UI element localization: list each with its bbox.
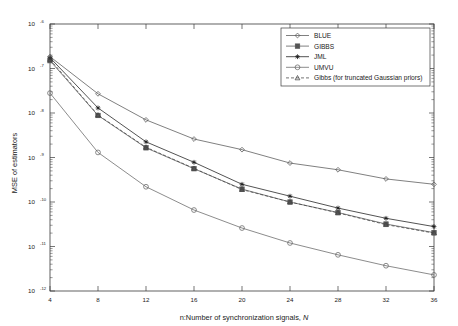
legend-label: BLUE xyxy=(314,32,332,39)
legend-label: Gibbs (for truncated Gaussian priors) xyxy=(314,74,422,82)
y-tick-exponent: -6 xyxy=(40,19,44,24)
x-axis-label-plain: n:Number of synchronization signals, xyxy=(180,313,303,322)
x-tick-label: 12 xyxy=(143,296,150,303)
data-point-marker xyxy=(295,54,300,59)
data-point-marker xyxy=(192,160,197,165)
data-point-marker xyxy=(295,44,299,48)
figure-container: 10-610-710-810-910-1010-1110-12 48121620… xyxy=(0,0,458,326)
x-tick-label: 32 xyxy=(383,296,390,303)
chart-legend: BLUEGIBBSJMLUMVUGibbs (for truncated Gau… xyxy=(281,28,430,86)
y-tick-exponent: -9 xyxy=(40,152,44,157)
x-tick-label: 28 xyxy=(335,296,342,303)
y-tick-exponent: -12 xyxy=(40,286,47,291)
y-tick-exponent: -11 xyxy=(40,241,46,246)
y-tick-label: 10 xyxy=(28,287,35,294)
y-axis-label: MSE of estimators xyxy=(10,133,19,194)
x-axis-label: n:Number of synchronization signals, N xyxy=(180,313,309,322)
x-tick-label: 20 xyxy=(239,296,246,303)
y-tick-exponent: -10 xyxy=(40,197,47,202)
x-tick-label: 8 xyxy=(96,296,100,303)
y-tick-label: 10 xyxy=(28,20,35,27)
y-tick-label: 10 xyxy=(28,198,35,205)
data-point-marker xyxy=(96,106,101,111)
mse-vs-sync-signals-chart: 10-610-710-810-910-1010-1110-12 48121620… xyxy=(0,0,458,326)
y-tick-label: 10 xyxy=(28,154,35,161)
legend-label: UMVU xyxy=(314,64,334,71)
legend-label: JML xyxy=(314,53,327,60)
x-tick-label: 16 xyxy=(191,296,198,303)
data-point-marker xyxy=(432,224,437,229)
y-tick-label: 10 xyxy=(28,243,35,250)
data-point-marker xyxy=(384,216,389,221)
series-line xyxy=(50,61,434,233)
y-tick-exponent: -8 xyxy=(40,108,44,113)
data-series-group xyxy=(48,54,437,277)
data-point-marker xyxy=(144,139,149,144)
x-tick-label: 4 xyxy=(48,296,52,303)
data-point-marker xyxy=(288,194,293,199)
x-axis-label-italic: N xyxy=(303,313,309,322)
x-tick-label: 24 xyxy=(287,296,294,303)
y-tick-label: 10 xyxy=(28,65,35,72)
y-tick-label: 10 xyxy=(28,109,35,116)
y-tick-exponent: -7 xyxy=(40,63,44,68)
x-tick-label: 36 xyxy=(431,296,438,303)
legend-label: GIBBS xyxy=(314,43,335,50)
data-point-marker xyxy=(240,182,245,187)
